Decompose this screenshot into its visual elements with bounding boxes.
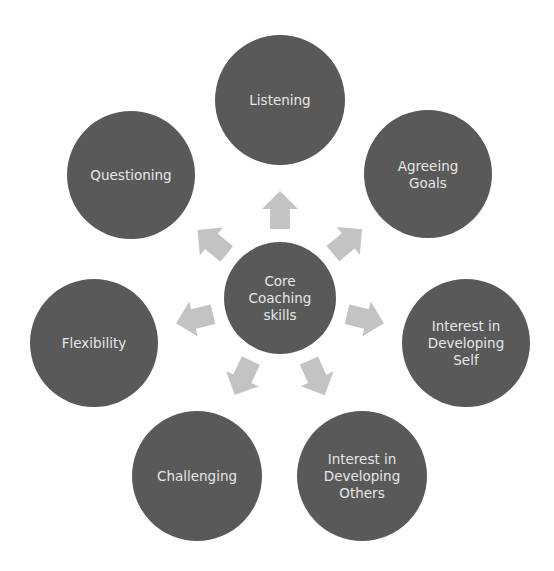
arrow-to-flexibility-icon: [172, 297, 217, 341]
arrow-to-questioning-icon: [186, 216, 238, 268]
node-questioning: Questioning: [67, 111, 195, 239]
label-line: Interest in: [432, 318, 501, 334]
label-line: Questioning: [90, 167, 171, 183]
flexibility-label: Flexibility: [62, 335, 126, 351]
label-line: Interest in: [328, 451, 397, 467]
arrow-to-interest-developing-self-icon: [343, 297, 388, 341]
label-line: Developing: [324, 468, 400, 484]
node-agreeing-goals: AgreeingGoals: [364, 110, 492, 238]
listening-label: Listening: [249, 92, 310, 108]
label-line: skills: [263, 307, 296, 323]
label-line: Coaching: [249, 290, 312, 306]
node-challenging: Challenging: [132, 411, 262, 541]
node-flexibility: Flexibility: [30, 279, 158, 407]
node-interest-developing-others: Interest inDevelopingOthers: [297, 411, 427, 541]
node-interest-developing-self: Interest inDevelopingSelf: [402, 279, 530, 407]
node-listening: Listening: [215, 35, 345, 165]
core-coaching-skills-diagram: ListeningAgreeingGoalsInterest inDevelop…: [0, 0, 554, 571]
arrow-to-challenging-icon: [218, 353, 267, 403]
label-line: Goals: [409, 175, 447, 191]
label-line: Developing: [428, 335, 504, 351]
challenging-label: Challenging: [157, 468, 237, 484]
arrow-to-agreeing-goals-icon: [321, 215, 373, 267]
label-line: Self: [453, 352, 480, 368]
center-node: CoreCoachingskills: [224, 242, 336, 354]
label-line: Listening: [249, 92, 310, 108]
arrow-to-interest-developing-others-icon: [293, 353, 342, 403]
label-line: Others: [339, 485, 384, 501]
label-line: Agreeing: [398, 158, 459, 174]
label-line: Flexibility: [62, 335, 126, 351]
label-line: Core: [264, 273, 295, 289]
label-line: Challenging: [157, 468, 237, 484]
questioning-label: Questioning: [90, 167, 171, 183]
arrow-to-listening-icon: [262, 191, 298, 229]
